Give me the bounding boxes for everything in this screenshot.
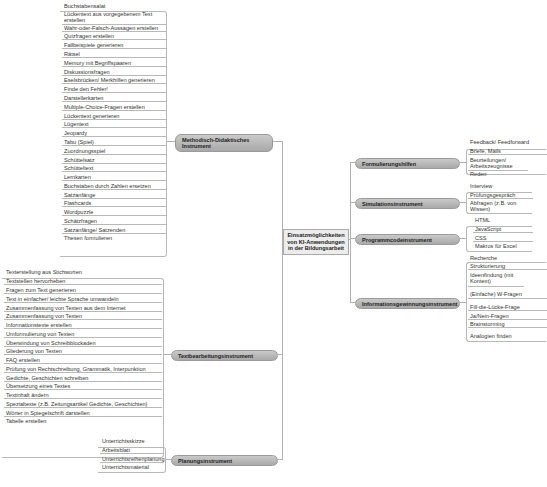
leaf-diskussionsfragen[interactable]: Diskussionsfragen — [62, 69, 166, 76]
leaf-fallbeispiele[interactable]: Fallbeispiele generieren — [62, 42, 166, 49]
leaf-buchstaben-zahlen[interactable]: Buchstaben durch Zahlen ersetzen — [62, 183, 166, 190]
leaf-unterrichtsreihenplanung[interactable]: Unterrichtsreihenplanung — [100, 456, 164, 463]
leaf-schaetzfragen[interactable]: Schätzfragen — [62, 218, 166, 225]
connector-methodisch — [272, 141, 282, 142]
leaf-lueckentext-generieren[interactable]: Lückentext generieren — [62, 113, 166, 120]
branch-methodisch-didaktisches-instrument[interactable]: Methodisch-Didaktisches Instrument — [175, 134, 273, 152]
leaf-thesen[interactable]: Thesen formulieren — [62, 235, 166, 241]
leaf-rechtschreibung[interactable]: Prüfung von Rechtschreibung, Grammatik, … — [4, 366, 162, 373]
leaf-html[interactable]: HTML — [473, 217, 533, 223]
branch-formulierungshilfen[interactable]: Formulierungshilfen — [355, 158, 460, 169]
branch-simulationsinstrument[interactable]: Simulationsinstrument — [355, 198, 460, 209]
leaf-fragen-zum-text[interactable]: Fragen zum Text generieren — [4, 287, 162, 294]
leaf-gedichte[interactable]: Gedichte, Geschichten schreiben — [4, 375, 162, 382]
leaf-eselsbruecken[interactable]: Eselsbrücken/ Merkhilfen generieren — [62, 77, 166, 84]
leaf-feedback[interactable]: Feedback/ Feedforward — [468, 139, 547, 145]
leaf-tabu[interactable]: Tabu (Spiel) — [62, 139, 166, 146]
connector-textbearbeitung — [278, 354, 283, 355]
leaf-reden[interactable]: Reden — [468, 171, 547, 177]
branch-label: Textbearbeitungsinstrument — [178, 353, 253, 359]
leaf-memory[interactable]: Memory mit Begriffspaaren — [62, 60, 166, 67]
leaf-satzanfaenge-satzenden[interactable]: Satzanfänge/ Satzenden — [62, 227, 166, 234]
leaf-multiple-choice[interactable]: Multiple-Choice-Fragen erstellen — [62, 104, 166, 111]
leaf-textstellen[interactable]: Textstellen hervorheben — [4, 278, 162, 285]
leaf-makros-excel[interactable]: Makros für Excel — [473, 243, 533, 249]
leaf-faq[interactable]: FAQ erstellen — [4, 357, 162, 364]
leaf-tabelle[interactable]: Tabelle erstellen — [4, 418, 162, 424]
leaf-brainstorming[interactable]: Brainstorming — [468, 321, 547, 328]
leaf-luegentext[interactable]: Lügentext — [62, 121, 166, 128]
connector-planung-leaves — [166, 459, 171, 460]
branch-programmcodeinstrument[interactable]: Programmcodeinstrument — [355, 234, 460, 245]
leaf-flashcards[interactable]: Flashcards — [62, 200, 166, 207]
leaf-einfache-sprache[interactable]: Text in einfacher/ leichte Sprache umwan… — [4, 296, 162, 303]
leaf-buchstabensalat[interactable]: Buchstabensalat — [62, 3, 166, 9]
connector-planung — [278, 459, 283, 460]
leaf-spiegelschrift[interactable]: Wörter in Spiegelschrift darstellen — [4, 410, 162, 417]
leaf-satzanfaenge[interactable]: Satzanfänge — [62, 192, 166, 199]
central-topic-line-1: Einsatzmöglichkeiten — [287, 232, 345, 239]
leaf-umformulierung[interactable]: Umformulierung von Texten — [4, 331, 162, 338]
connector-center-right — [349, 239, 351, 240]
leaf-css[interactable]: CSS — [473, 235, 533, 242]
branch-informationsgewinnungsinstrument[interactable]: Informationsgewinnungsinstrument — [355, 298, 460, 309]
connector-textbearbeitung-leaves — [164, 354, 171, 355]
leaf-lernkarten[interactable]: Lernkarten — [62, 174, 166, 181]
leaf-unterrichtsskizze[interactable]: Unterrichtsskizze — [100, 438, 164, 444]
branch-label: Programmcodeinstrument — [362, 237, 432, 243]
leaf-analogien[interactable]: Analogien finden — [468, 333, 547, 339]
central-topic-line-3: in der Bildungsarbeit — [287, 245, 345, 252]
leaf-gliederung[interactable]: Gliederung von Texten — [4, 348, 162, 355]
leaf-ja-nein[interactable]: Ja/Nein-Fragen — [468, 313, 547, 320]
leaf-jeopardy[interactable]: Jeopardy — [62, 130, 166, 137]
leaf-javascript[interactable]: JavaScript — [473, 226, 533, 233]
leaf-unterrichtsmaterial[interactable]: Unterrichtsmaterial — [100, 464, 164, 470]
leaf-zusammenfassung-internet[interactable]: Zusammenfassung von Texten aus dem Inter… — [4, 305, 162, 312]
branch-label: Planungsinstrument — [178, 458, 232, 464]
leaf-zuordnungsspiel[interactable]: Zuordnungsspiel — [62, 148, 166, 155]
leaf-interview[interactable]: Interview — [468, 183, 533, 189]
central-topic[interactable]: Einsatzmöglichkeiten von KI-Anwendungen … — [283, 229, 349, 255]
branch-label: Informationsgewinnungsinstrument — [362, 301, 457, 307]
connector-formulierung-leaves — [460, 162, 466, 163]
leaf-spezialtexte[interactable]: Spezialtexte (z.B. Zeitungsartikel Gedic… — [4, 401, 162, 408]
leaf-ideenfindung[interactable]: Ideenfindung (mit Kontext) — [468, 272, 524, 287]
leaf-finde-fehler[interactable]: Finde den Fehler! — [62, 86, 166, 93]
leaf-schuettelsatz[interactable]: Schüttelsatz — [62, 157, 166, 164]
leaf-fill-luecke[interactable]: Fill-die-Lücke-Frage — [468, 304, 547, 311]
branch-planungsinstrument[interactable]: Planungsinstrument — [171, 455, 278, 466]
leaf-raetsel[interactable]: Rätsel — [62, 51, 166, 58]
branch-label-line-2: Instrument — [182, 143, 266, 149]
leaf-uebersetzung[interactable]: Übersetzung eines Textes — [4, 383, 162, 390]
leaf-recherche[interactable]: Recherche — [468, 255, 547, 261]
leaf-quizfragen[interactable]: Quizfragen erstellen — [62, 33, 166, 40]
connector-left-trunk — [282, 141, 283, 459]
leaf-schuetteltext[interactable]: Schütteltext — [62, 165, 166, 172]
leaf-informationstexte[interactable]: Informationstexte erstellen — [4, 322, 162, 329]
leaf-schreibblockaden[interactable]: Überwindung von Schreibblockaden — [4, 340, 162, 347]
leaf-texterstellung[interactable]: Texterstellung aus Stichworten — [4, 269, 162, 275]
leaf-briefe-mails[interactable]: Briefe, Mails — [468, 148, 547, 155]
leaf-w-fragen[interactable]: (Einfache) W-Fragen — [468, 290, 547, 299]
leaf-strukturierung[interactable]: Strukturierung — [468, 263, 547, 270]
leaf-darstellerkarten[interactable]: Darstellerkarten — [62, 95, 166, 102]
branch-label: Formulierungshilfen — [362, 161, 416, 167]
leaf-lueckentext-vorgegeben[interactable]: Lückentext aus vorgegebenem Text erstell… — [62, 11, 166, 25]
connector-information-leaves — [460, 302, 466, 303]
connector-simulation-leaves — [460, 202, 466, 203]
leaf-wordpuzzle[interactable]: Wordpuzzle — [62, 209, 166, 216]
leaf-wahr-falsch[interactable]: Wahr-oder-Falsch-Aussagen erstellen — [62, 25, 166, 32]
connector-right-trunk — [350, 162, 351, 302]
branch-label: Simulationsinstrument — [362, 201, 423, 207]
leaf-zusammenfassung[interactable]: Zusammenfassung von Texten — [4, 313, 162, 320]
branch-textbearbeitungsinstrument[interactable]: Textbearbeitungsinstrument — [171, 350, 278, 361]
leaf-textinhalt[interactable]: Textinhalt ändern — [4, 392, 162, 399]
leaf-beurteilungen[interactable]: Beurteilungen/ Arbeitszeugnisse — [468, 157, 528, 171]
connector-programmcode-leaves — [460, 238, 466, 239]
leaf-abfragen[interactable]: Abfragen (z.B. von Wissen) — [468, 200, 523, 214]
connector-methodisch-leaves — [167, 141, 175, 142]
leaf-pruefungsgespraech[interactable]: Prüfungsgespräch — [468, 192, 533, 199]
leaf-arbeitsblatt[interactable]: Arbeitsblatt — [100, 447, 164, 454]
